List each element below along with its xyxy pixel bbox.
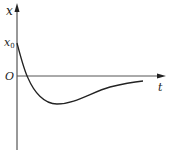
response-curve	[17, 43, 143, 104]
horizontal-axis-label: t	[158, 81, 163, 94]
vertical-axis-arrow-icon	[15, 3, 20, 12]
initial-value-subscript: 0	[10, 42, 14, 50]
graph-canvas: x x0 O t	[0, 0, 169, 152]
vertical-axis-label: x	[6, 4, 13, 18]
horizontal-axis-arrow-icon	[157, 74, 166, 79]
origin-label: O	[5, 70, 14, 83]
initial-value-label: x0	[4, 36, 15, 50]
